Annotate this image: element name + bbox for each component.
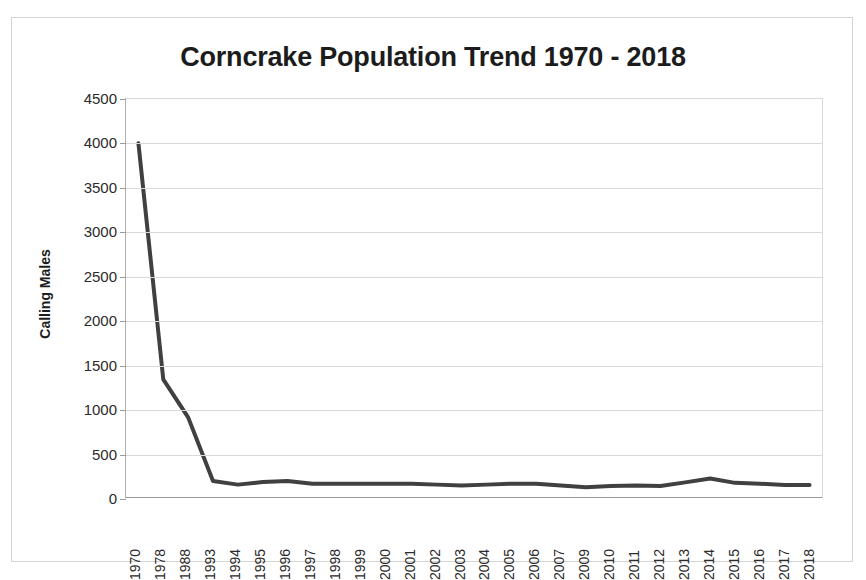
y-tick-mark — [120, 321, 126, 322]
y-tick-mark — [120, 99, 126, 100]
gridline — [126, 143, 822, 144]
x-tick-label: 2018 — [801, 549, 817, 580]
y-tick-label: 3000 — [47, 223, 117, 240]
x-tick-label: 2013 — [676, 549, 692, 580]
gridline — [126, 232, 822, 233]
y-tick-mark — [120, 455, 126, 456]
x-tick-label: 1998 — [327, 549, 343, 580]
x-tick-label: 1970 — [127, 549, 143, 580]
series-polyline — [138, 143, 809, 487]
plot-area — [125, 98, 823, 498]
y-tick-mark — [120, 188, 126, 189]
y-tick-label: 4500 — [47, 90, 117, 107]
x-tick-label: 2010 — [601, 549, 617, 580]
chart-frame: Corncrake Population Trend 1970 - 2018 C… — [11, 17, 853, 562]
y-tick-label: 0 — [47, 490, 117, 507]
y-axis-tick-labels: 050010001500200025003000350040004500 — [47, 98, 117, 498]
y-tick-mark — [120, 277, 126, 278]
x-tick-label: 2002 — [427, 549, 443, 580]
y-tick-label: 3500 — [47, 178, 117, 195]
y-tick-mark — [120, 499, 126, 500]
x-tick-label: 2012 — [651, 549, 667, 580]
x-tick-label: 2001 — [402, 549, 418, 580]
gridline — [126, 321, 822, 322]
x-tick-label: 1993 — [202, 549, 218, 580]
x-tick-label: 2003 — [452, 549, 468, 580]
y-tick-mark — [120, 366, 126, 367]
y-tick-label: 500 — [47, 445, 117, 462]
x-tick-label: 1978 — [152, 549, 168, 580]
x-tick-label: 2011 — [626, 550, 642, 580]
x-tick-label: 2000 — [377, 549, 393, 580]
x-tick-label: 1994 — [227, 549, 243, 580]
line-series-calling-males — [126, 99, 822, 497]
gridline — [126, 410, 822, 411]
gridline — [126, 188, 822, 189]
y-tick-label: 1500 — [47, 356, 117, 373]
x-tick-label: 2006 — [526, 549, 542, 580]
y-tick-mark — [120, 232, 126, 233]
gridline — [126, 277, 822, 278]
x-tick-label: 2016 — [751, 549, 767, 580]
chart-title: Corncrake Population Trend 1970 - 2018 — [12, 42, 854, 73]
y-tick-label: 1000 — [47, 401, 117, 418]
x-tick-label: 1988 — [177, 549, 193, 580]
x-tick-label: 2014 — [701, 549, 717, 580]
x-tick-label: 1999 — [352, 549, 368, 580]
x-tick-label: 2015 — [726, 549, 742, 580]
y-tick-label: 4000 — [47, 134, 117, 151]
gridline — [126, 366, 822, 367]
y-tick-label: 2000 — [47, 312, 117, 329]
y-tick-mark — [120, 410, 126, 411]
x-tick-label: 1995 — [252, 549, 268, 580]
x-tick-label: 1997 — [302, 549, 318, 580]
x-tick-label: 2004 — [476, 549, 492, 580]
x-axis-tick-labels: 1970197819881993199419951996199719981999… — [125, 502, 823, 580]
x-tick-label: 2005 — [501, 549, 517, 580]
x-tick-label: 2017 — [776, 549, 792, 580]
y-tick-label: 2500 — [47, 267, 117, 284]
x-tick-label: 1996 — [277, 549, 293, 580]
y-tick-mark — [120, 143, 126, 144]
x-tick-label: 2007 — [551, 549, 567, 580]
x-tick-label: 2009 — [576, 549, 592, 580]
gridline — [126, 455, 822, 456]
